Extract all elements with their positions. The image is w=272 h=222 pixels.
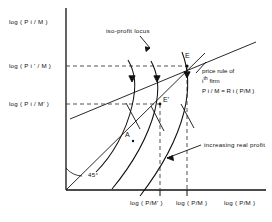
y-tick-label-mid: log ( P i ' / M )	[9, 62, 51, 70]
curve-arrow-3	[184, 72, 190, 78]
x-axis-ticks	[160, 190, 187, 196]
price-rule-firm-word: firm	[208, 77, 220, 84]
increasing-profit-arrow	[167, 145, 201, 161]
point-label-E-prime: E'	[163, 96, 169, 103]
price-rule-line-2: ith firm	[202, 75, 254, 85]
point-A-dot	[132, 140, 134, 142]
x-tick-label-left: log ( P/M' )	[130, 199, 163, 207]
y-tick-label-top: log ( P i / M )	[9, 18, 48, 26]
y-tick-label-low: log ( P i / M' )	[9, 100, 49, 108]
x-tick-label-right: log ( P/M )	[176, 199, 207, 207]
figure-iso-profit-locus: log ( P i / M ) log ( P i ' / M ) log ( …	[0, 0, 272, 222]
annotation-isoprofit-locus: iso-profit locus	[106, 27, 150, 35]
price-rule-line-3: P i / M = R i ( P/M )	[202, 86, 254, 95]
point-label-E: E	[185, 52, 190, 59]
point-Ep-dot	[159, 103, 162, 106]
iso-profit-curves	[96, 52, 188, 196]
isoprofit-callout-arrow	[140, 36, 150, 52]
angle-label-45: 45°	[88, 171, 98, 179]
annotation-increasing-real-profit: increasing real profit	[204, 141, 265, 149]
angle-arc	[66, 168, 82, 176]
x-axis-title: log ( P/M )	[224, 199, 255, 207]
point-label-A: A	[125, 131, 130, 138]
price-rule-line-1: price rule of	[202, 66, 254, 75]
dashed-guides	[66, 66, 187, 190]
point-E-dot	[185, 64, 188, 67]
tangency-tick-a	[126, 103, 140, 129]
curve-arrow-2	[154, 76, 160, 82]
annotation-price-rule: price rule of ith firm P i / M = R i ( P…	[202, 66, 254, 95]
